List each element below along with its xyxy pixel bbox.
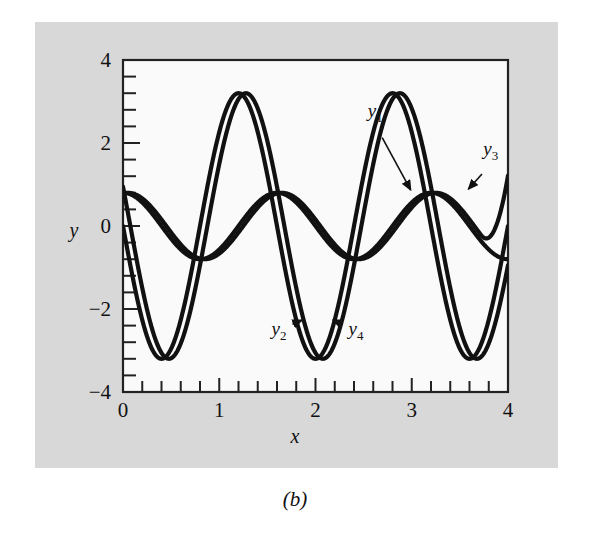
line-chart: 01234−4−2024 y1y3y2y4 x y bbox=[0, 0, 590, 542]
figure-caption: (b) bbox=[0, 487, 590, 512]
x-axis-label: x bbox=[290, 425, 300, 447]
y-tick-label: −4 bbox=[89, 380, 112, 404]
x-tick-label: 2 bbox=[310, 398, 321, 422]
chart-container: 01234−4−2024 y1y3y2y4 x y bbox=[0, 0, 590, 542]
y-tick-label: 0 bbox=[101, 214, 112, 238]
y-tick-label: 4 bbox=[101, 48, 112, 72]
y-tick-label: −2 bbox=[89, 297, 111, 321]
x-tick-label: 4 bbox=[503, 398, 514, 422]
y-tick-label: 2 bbox=[101, 131, 112, 155]
y-axis-label: y bbox=[68, 219, 79, 242]
x-tick-label: 3 bbox=[407, 398, 418, 422]
x-tick-label: 0 bbox=[118, 398, 129, 422]
x-tick-label: 1 bbox=[214, 398, 225, 422]
